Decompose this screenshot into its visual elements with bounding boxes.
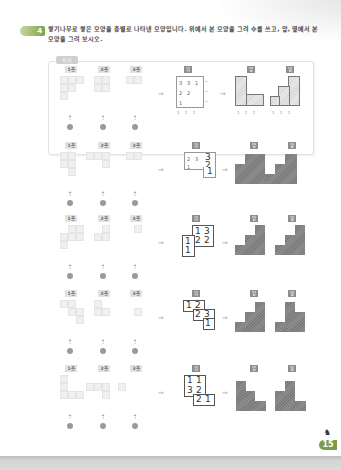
side-view-label: 옆 [286,66,294,73]
mascot-icon: ♞ [324,428,331,437]
front-view-label: 앞 [250,290,258,297]
problem-row-2: 1층 2층 3층 ⇡ ⇡ ⇡ ⇒ 위 1 3 2 2 1 1 ⇒ 앞 옆 [60,215,330,285]
floor-3-label: 3층 [130,142,142,149]
eye-icon [100,348,106,354]
up-arrow-icon: ⇡ [98,114,108,121]
top-view-label: 위 [192,290,200,297]
eye-icon [132,348,138,354]
floor-3-label: 3층 [130,290,142,297]
right-arrow-icon: ⇒ [158,90,164,98]
front-view-solid [245,154,265,184]
front-counts: 1 1 1 [177,110,197,115]
floor-1-label: 1층 [65,215,77,222]
right-arrow-icon: ⇒ [222,389,228,397]
problem-row-4: 1층 2층 3층 ⇡ ⇡ ⇡ ⇒ 위 1 1 3 2 2 1 ⇒ 앞 옆 [60,365,330,435]
eye-icon [67,124,73,130]
right-arrow-icon: ⇒ [222,166,228,174]
front-view-counts: 1 1 1 [237,110,257,115]
eye-icon [100,124,106,130]
floor-1-label: 1층 [65,66,77,73]
example-row: 1층 2층 3층 ⇡ ⇡ ⇡ ⇒ 위 3 3 1 2 2 1 1 1 1 – –… [60,66,330,136]
up-arrow-icon: ⇡ [65,263,75,270]
top-view-label: 위 [184,66,192,73]
side-view-counts: 1 1 1 [272,110,292,115]
front-view-label: 앞 [250,142,258,149]
side-view-label: 옆 [288,290,296,297]
right-arrow-icon: ⇒ [158,239,164,247]
front-view-label: 앞 [250,215,258,222]
up-arrow-icon: ⇡ [98,413,108,420]
example-top-view: 3 3 1 2 2 1 [176,76,204,108]
top-view-label: 위 [192,142,200,149]
eye-icon [132,423,138,429]
right-arrow-icon: ⇒ [158,166,164,174]
up-arrow-icon: ⇡ [65,190,75,197]
page-number: 15 [319,440,337,450]
floor-2-label: 2층 [98,290,110,297]
side-view-label: 옆 [288,142,296,149]
up-arrow-icon: ⇡ [130,190,140,197]
right-arrow-icon: ⇒ [222,239,228,247]
up-arrow-icon: ⇡ [98,263,108,270]
side-view-label: 옆 [288,365,296,372]
front-view-label: 앞 [247,66,255,73]
eye-icon [132,273,138,279]
right-arrow-icon: ⇒ [158,389,164,397]
bottom-edge [0,456,341,470]
floor-2-label: 2층 [98,365,110,372]
problem-row-3: 1층 2층 3층 ⇡ ⇡ ⇡ ⇒ 위 1 2 2 3 1 ⇒ 앞 옆 [60,290,330,360]
floor-1-label: 1층 [65,142,77,149]
up-arrow-icon: ⇡ [65,413,75,420]
up-arrow-icon: ⇡ [130,413,140,420]
top-view-drawing: 1 3 2 2 [192,225,214,247]
eye-icon [100,423,106,429]
right-arrow-icon: ⇒ [220,90,226,98]
front-view-label: 앞 [250,365,258,372]
floor-3-label: 3층 [130,215,142,222]
top-view-label: 위 [192,215,200,222]
eye-icon [67,348,73,354]
eye-icon [67,273,73,279]
eye-icon [67,423,73,429]
floor-1-label: 1층 [65,365,77,372]
up-arrow-icon: ⇡ [65,338,75,345]
eye-icon [100,200,106,206]
right-arrow-icon: ⇒ [222,314,228,322]
right-arrow-icon: ⇒ [158,314,164,322]
eye-icon [132,200,138,206]
floor-3-label: 3층 [130,365,142,372]
floor-2-label: 2층 [98,66,110,73]
up-arrow-icon: ⇡ [130,114,140,121]
up-arrow-icon: ⇡ [130,263,140,270]
top-view-label: 위 [192,365,200,372]
up-arrow-icon: ⇡ [130,338,140,345]
up-arrow-icon: ⇡ [98,190,108,197]
question-number-badge: 4 [20,26,45,36]
floor-2-label: 2층 [98,215,110,222]
up-arrow-icon: ⇡ [65,114,75,121]
eye-icon [100,273,106,279]
floor-1-label: 1층 [65,290,77,297]
up-arrow-icon: ⇡ [98,338,108,345]
problem-row-1: 1층 2층 3층 ⇡ ⇡ ⇡ ⇒ 위 2 3 1 3 2 1 ⇒ 앞 옆 [60,142,330,212]
eye-icon [132,124,138,130]
floor-2-label: 2층 [98,142,110,149]
eye-icon [67,200,73,206]
floor-3-label: 3층 [130,66,142,73]
example-tag: 보기 [56,56,78,64]
question-text: 쌓기나무로 쌓은 모양을 층별로 나타낸 모양입니다. 위에서 본 모양을 그려… [48,24,326,44]
side-view-label: 옆 [288,215,296,222]
